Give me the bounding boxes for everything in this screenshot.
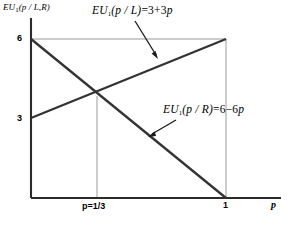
economics-line-chart-figure: EU1(p / L,R) EU1(p / L)=3+3p EU1(p / R)=… — [0, 0, 292, 227]
eu-right-equation-label: EU1(p / R)=6−6p — [163, 104, 244, 117]
eu-left-rest: (p / L) — [111, 4, 141, 16]
y-tick-label-6: 6 — [17, 34, 22, 43]
eu-right-rest: (p / R) — [182, 103, 213, 115]
eu-right-equals: =6−6 — [213, 103, 238, 115]
y-axis-title-prefix: EU — [3, 2, 15, 12]
eu-left-tail: p — [167, 4, 173, 16]
eu-right-prefix: EU — [163, 103, 179, 115]
plot-canvas — [0, 0, 292, 227]
annotation-arrow-left — [135, 21, 158, 59]
y-tick-label-3: 3 — [17, 114, 22, 123]
x-tick-label-p-one-third: p=1/3 — [82, 202, 105, 211]
eu-right-tail: p — [238, 103, 244, 115]
eu-left-prefix: EU — [92, 4, 108, 16]
annotation-arrow-right — [148, 120, 176, 137]
eu-left-equals: =3+3 — [141, 4, 166, 16]
y-axis-title-rest: (p / L,R) — [19, 2, 50, 12]
series-line-eu-right — [31, 39, 226, 198]
y-axis-title: EU1(p / L,R) — [3, 3, 50, 14]
eu-left-equation-label: EU1(p / L)=3+3p — [92, 5, 173, 18]
x-axis-title: p — [271, 200, 276, 210]
x-tick-label-1: 1 — [223, 201, 228, 210]
